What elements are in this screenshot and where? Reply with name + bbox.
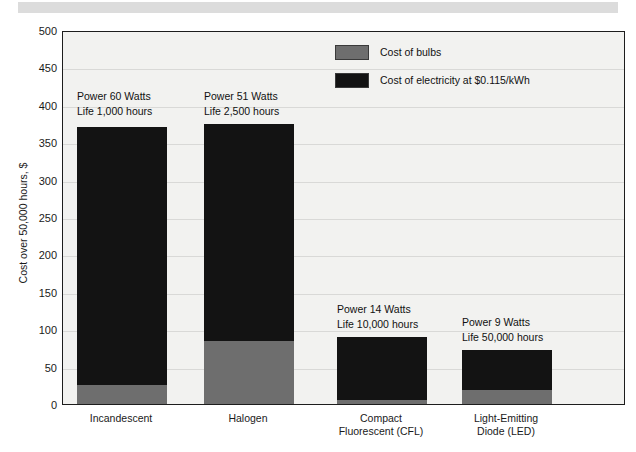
y-tick-450: 450	[5, 63, 57, 74]
bar-segment-electricity-cfl[interactable]	[337, 337, 427, 404]
annotation-incandescent-life: Life 1,000 hours	[77, 104, 152, 119]
legend-label-bulbs: Cost of bulbs	[380, 46, 441, 58]
legend-swatch-bulbs-icon	[335, 45, 369, 60]
x-tick-label-led-line2: Diode (LED)	[451, 425, 561, 438]
bar-segment-bulbs-halogen[interactable]	[204, 341, 294, 404]
y-tick-0: 0	[5, 400, 57, 411]
bar-segment-electricity-incandescent[interactable]	[77, 127, 167, 404]
bar-segment-bulbs-incandescent[interactable]	[77, 385, 167, 404]
bar-light-emitting-diode[interactable]	[462, 350, 552, 404]
y-tick-200: 200	[5, 250, 57, 261]
x-tick-label-cfl-line1: Compact	[326, 412, 436, 425]
y-tick-100: 100	[5, 325, 57, 336]
bar-segment-bulbs-led[interactable]	[462, 390, 552, 404]
bar-chart: 500 450 400 350 300 250 200 150 100 50 0…	[0, 0, 636, 452]
annotation-incandescent-power: Power 60 Watts	[77, 89, 152, 104]
x-tick-label-led: Light-Emitting Diode (LED)	[451, 412, 561, 438]
legend-swatch-electricity-icon	[335, 73, 369, 88]
plot-area: Power 60 Watts Life 1,000 hours Power 51…	[62, 31, 625, 405]
legend-item-bulbs[interactable]: Cost of bulbs	[335, 41, 620, 63]
y-tick-400: 400	[5, 101, 57, 112]
bar-compact-fluorescent[interactable]	[337, 337, 427, 404]
y-tick-350: 350	[5, 138, 57, 149]
bar-halogen[interactable]	[204, 124, 294, 404]
y-tick-500: 500	[5, 26, 57, 37]
annotation-halogen-power: Power 51 Watts	[204, 89, 279, 104]
annotation-incandescent: Power 60 Watts Life 1,000 hours	[77, 89, 152, 119]
annotation-halogen-life: Life 2,500 hours	[204, 104, 279, 119]
annotation-cfl-power: Power 14 Watts	[337, 302, 418, 317]
bar-segment-bulbs-cfl[interactable]	[337, 400, 427, 404]
y-tick-50: 50	[5, 363, 57, 374]
y-tick-150: 150	[5, 288, 57, 299]
annotation-cfl: Power 14 Watts Life 10,000 hours	[337, 302, 418, 332]
annotation-led-power: Power 9 Watts	[462, 315, 543, 330]
annotation-led-life: Life 50,000 hours	[462, 330, 543, 345]
annotation-halogen: Power 51 Watts Life 2,500 hours	[204, 89, 279, 119]
bar-incandescent[interactable]	[77, 127, 167, 404]
y-tick-250: 250	[5, 213, 57, 224]
x-tick-label-cfl-line2: Fluorescent (CFL)	[326, 425, 436, 438]
legend-label-electricity: Cost of electricity at $0.115/kWh	[380, 74, 530, 86]
annotation-cfl-life: Life 10,000 hours	[337, 317, 418, 332]
x-axis: Incandescent Halogen Compact Fluorescent…	[62, 409, 625, 449]
x-tick-label-incandescent: Incandescent	[76, 412, 166, 425]
y-tick-300: 300	[5, 176, 57, 187]
legend-item-electricity[interactable]: Cost of electricity at $0.115/kWh	[335, 69, 620, 91]
annotation-led: Power 9 Watts Life 50,000 hours	[462, 315, 543, 345]
y-axis-title: Cost over 50,000 hours, $	[17, 128, 29, 318]
x-tick-label-led-line1: Light-Emitting	[451, 412, 561, 425]
legend: Cost of bulbs Cost of electricity at $0.…	[335, 41, 620, 97]
x-tick-label-halogen: Halogen	[203, 412, 293, 425]
x-tick-label-cfl: Compact Fluorescent (CFL)	[326, 412, 436, 438]
y-axis: 500 450 400 350 300 250 200 150 100 50 0…	[0, 31, 57, 405]
